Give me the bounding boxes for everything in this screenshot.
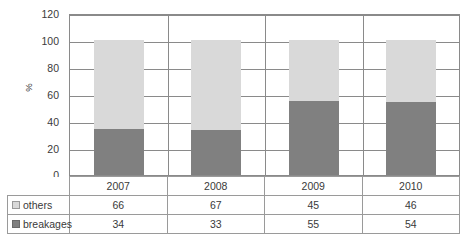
plot-area [69,14,460,176]
legend-swatch-others-icon [12,201,20,209]
bar-segment-breakages-2009 [289,101,339,175]
bar-segment-others-2010 [386,40,436,102]
table-cell-breakages-2009: 55 [265,215,363,234]
bar-segment-breakages-2008 [191,130,241,175]
legend-swatch-breakages-icon [12,220,20,228]
bar-stack-2010 [386,40,436,175]
table-row-years: 2007 2008 2009 2010 [8,177,460,196]
y-axis-label: % [23,83,34,91]
legend-label-breakages: breakages [23,219,72,231]
legend-item-breakages: breakages [8,215,70,234]
table-cell-others-2010: 46 [362,196,460,215]
bar-stack-2008 [191,40,241,175]
table-cell-breakages-2008: 33 [167,215,265,234]
bar-segment-breakages-2007 [94,129,144,175]
table-year-2009: 2009 [265,177,363,196]
table-cell-others-2007: 66 [70,196,168,215]
table-row-breakages: breakages 34 33 55 54 [8,215,460,234]
bar-segment-others-2008 [191,40,241,130]
y-axis-tick-40: 40 [19,117,59,128]
stacked-bar-chart-figure: 120 100 80 60 40 20 0 % [0,0,469,238]
table-row-others: others 66 67 45 46 [8,196,460,215]
table-corner-cell [8,177,70,196]
data-table: 2007 2008 2009 2010 others 66 67 45 46 b… [7,176,460,234]
bar-group-2007 [70,13,168,175]
table-year-2010: 2010 [362,177,460,196]
y-axis-tick-120: 120 [19,9,59,20]
table-cell-breakages-2007: 34 [70,215,168,234]
table-year-2008: 2008 [167,177,265,196]
bar-group-2010 [363,13,461,175]
bar-segment-others-2009 [289,40,339,101]
bar-group-2009 [265,13,363,175]
legend-item-others: others [8,196,70,215]
bar-stack-2007 [94,40,144,175]
bar-stack-2009 [289,40,339,175]
bar-segment-breakages-2010 [386,102,436,175]
y-axis-tick-100: 100 [19,36,59,47]
bar-segment-others-2007 [94,40,144,129]
legend-label-others: others [23,200,52,212]
table-cell-others-2009: 45 [265,196,363,215]
y-axis-tick-80: 80 [19,63,59,74]
table-cell-breakages-2010: 54 [362,215,460,234]
y-axis-tick-20: 20 [19,144,59,155]
table-year-2007: 2007 [70,177,168,196]
table-cell-others-2008: 67 [167,196,265,215]
bar-group-2008 [168,13,266,175]
